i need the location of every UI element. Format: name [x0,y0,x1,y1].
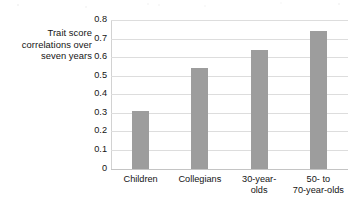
y-axis-tick-label: 0.4 [94,90,107,99]
y-axis-tick-label: 0.1 [94,145,107,154]
bar [310,31,327,168]
y-axis-tick-label: 0.6 [94,53,107,62]
x-axis-tick-label: 50- to70-year-olds [293,174,344,196]
bar [191,68,208,168]
x-axis-tick-label-line: olds [242,185,276,196]
x-axis-tick-label: Children [124,174,158,185]
y-axis-tick-label: 0.7 [94,34,107,43]
y-axis-tick-label: 0.8 [94,15,107,24]
y-axis-tick-label: 0.2 [94,127,107,136]
x-axis-tick-label-line: 50- to [293,174,344,185]
scan-noise-artifact [0,0,357,14]
x-axis-tick-label: Collegians [178,174,221,185]
y-axis-tick-label: 0.5 [94,71,107,80]
y-axis-tick-label: 0.3 [94,108,107,117]
bar [251,50,268,169]
x-axis-tick-label-line: Children [124,174,158,185]
x-axis-tick-label-line: 30-year- [242,174,276,185]
y-axis-tick-label: 0 [102,164,107,173]
x-axis-tick-label: 30-year-olds [242,174,276,196]
x-axis-line [111,169,348,170]
gridline [111,20,348,21]
x-axis-tick-label-line: 70-year-olds [293,185,344,196]
y-axis-label: Trait score correlations over seven year… [6,27,92,62]
y-axis-label-line: Trait score [6,27,92,39]
plot-area: 00.10.20.30.40.50.60.70.8 [111,20,348,170]
x-axis-tick-label-line: Collegians [178,174,221,185]
y-axis-label-line: correlations over [6,39,92,51]
y-axis-label-line: seven years [6,50,92,62]
bar [132,111,149,169]
bar-chart-figure: Trait score correlations over seven year… [0,0,357,204]
